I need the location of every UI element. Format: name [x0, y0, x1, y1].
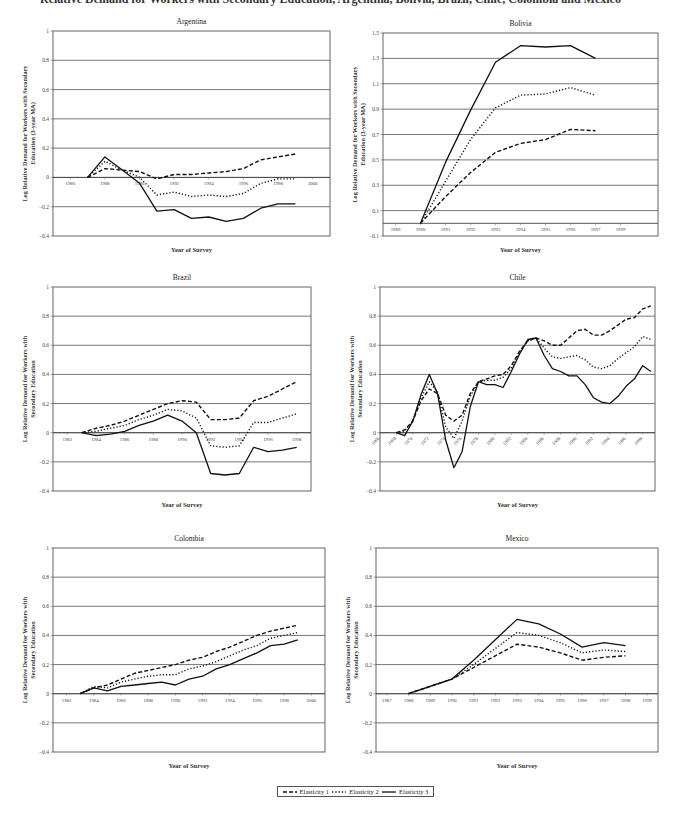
- x-tick-label: 1987: [382, 698, 392, 703]
- y-axis-label: Log Relative Demand for Workers with: [344, 596, 351, 703]
- legend-label: Elasticity 1: [300, 788, 329, 795]
- y-tick-label: −0.2: [362, 720, 372, 726]
- x-axis-label: Year of Survey: [496, 762, 538, 769]
- y-tick-label: 0.2: [365, 662, 372, 668]
- legend-item-elasticity-3: Elasticity 3: [382, 788, 428, 795]
- legend-label: Elasticity 3: [399, 788, 428, 795]
- legend-label: Elasticity 2: [349, 788, 378, 795]
- y-tick-label: −0.4: [362, 749, 372, 755]
- y-tick-label: 0.8: [365, 574, 372, 580]
- y-tick-label: 0: [369, 691, 372, 697]
- x-tick-label: 1991: [469, 698, 479, 703]
- legend-item-elasticity-1: Elasticity 1: [283, 788, 329, 795]
- x-tick-label: 1997: [599, 698, 609, 703]
- series-elasticity-2: [409, 633, 626, 694]
- x-tick-label: 1996: [577, 698, 587, 703]
- y-tick-label: 0.4: [365, 632, 372, 638]
- y-tick-label: 0.6: [365, 603, 372, 609]
- chart-title: Mexico: [506, 534, 529, 543]
- dashed-line-icon: [283, 790, 297, 794]
- x-tick-label: 1993: [512, 698, 522, 703]
- dotted-line-icon: [332, 790, 346, 794]
- legend: Elasticity 1 Elasticity 2 Elasticity 3: [277, 786, 434, 797]
- series-elasticity-3: [409, 619, 626, 693]
- chart-mexico: Mexico−0.4−0.200.20.40.60.81198719881989…: [0, 0, 673, 780]
- x-tick-label: 1995: [556, 698, 566, 703]
- y-axis-label: Secondary Education: [352, 621, 359, 679]
- x-tick-label: 1992: [491, 698, 501, 703]
- y-tick-label: 1: [369, 545, 372, 551]
- x-tick-label: 1998: [621, 698, 631, 703]
- x-tick-label: 1990: [447, 698, 457, 703]
- x-tick-label: 1994: [534, 698, 544, 703]
- x-tick-label: 1989: [425, 698, 435, 703]
- plot-frame: [376, 548, 658, 752]
- x-tick-label: 1999: [642, 698, 652, 703]
- legend-item-elasticity-2: Elasticity 2: [332, 788, 378, 795]
- x-tick-label: 1988: [404, 698, 414, 703]
- solid-line-icon: [382, 790, 396, 794]
